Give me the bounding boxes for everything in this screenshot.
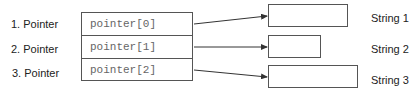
string-box-2 (268, 35, 321, 58)
string-box-3 (268, 65, 358, 88)
arrow-2 (194, 70, 267, 77)
string-box-1 (268, 4, 348, 27)
string-label-3: String 3 (371, 74, 409, 86)
string-label-1: String 1 (371, 12, 409, 24)
string-label-2: String 2 (371, 43, 409, 55)
arrow-0 (194, 16, 267, 24)
pointer-array-diagram: 1. Pointer 2. Pointer 3. Pointer pointer… (0, 0, 417, 92)
